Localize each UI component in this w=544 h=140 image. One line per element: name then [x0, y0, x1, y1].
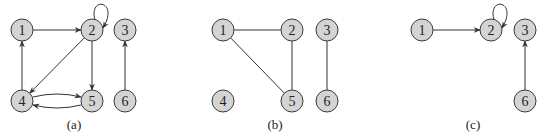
- arc-4-5: [33, 94, 81, 97]
- panel-caption: (b): [267, 117, 282, 132]
- node-3: 3: [316, 19, 338, 41]
- graph-figure: 123456(a)123456(b)1236(c): [0, 0, 544, 140]
- node-6: 6: [114, 90, 136, 112]
- node-5: 5: [281, 90, 303, 112]
- node-label: 6: [122, 94, 129, 109]
- graph-panel-a: 123456(a): [11, 4, 136, 132]
- node-2: 2: [480, 19, 502, 41]
- node-label: 5: [89, 94, 96, 109]
- node-1: 1: [411, 19, 433, 41]
- node-label: 4: [19, 94, 26, 109]
- node-label: 4: [220, 94, 227, 109]
- node-label: 5: [289, 94, 296, 109]
- node-3: 3: [114, 19, 136, 41]
- node-6: 6: [514, 90, 536, 112]
- node-label: 1: [419, 23, 426, 38]
- node-label: 2: [488, 23, 495, 38]
- arc-5-4: [33, 105, 81, 108]
- node-1: 1: [212, 19, 234, 41]
- node-label: 3: [122, 23, 129, 38]
- node-label: 3: [324, 23, 331, 38]
- node-3: 3: [514, 19, 536, 41]
- node-6: 6: [316, 90, 338, 112]
- panel-caption: (c): [466, 117, 480, 132]
- node-label: 6: [522, 94, 529, 109]
- node-label: 2: [89, 23, 96, 38]
- node-4: 4: [212, 90, 234, 112]
- arc-2-4: [30, 38, 85, 93]
- node-label: 3: [522, 23, 529, 38]
- node-2: 2: [81, 19, 103, 41]
- node-label: 6: [324, 94, 331, 109]
- node-label: 2: [289, 23, 296, 38]
- graph-panel-c: 1236(c): [411, 4, 536, 132]
- panel-caption: (a): [67, 117, 81, 132]
- edge-1-5: [231, 38, 285, 93]
- node-2: 2: [281, 19, 303, 41]
- node-4: 4: [11, 90, 33, 112]
- node-5: 5: [81, 90, 103, 112]
- graph-panel-b: 123456(b): [212, 19, 338, 132]
- node-label: 1: [220, 23, 227, 38]
- node-1: 1: [11, 19, 33, 41]
- node-label: 1: [19, 23, 26, 38]
